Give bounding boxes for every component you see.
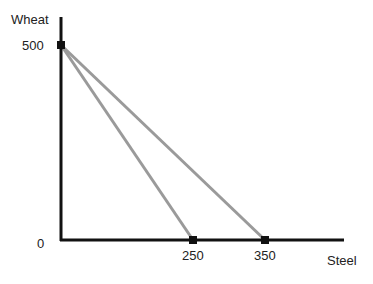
marker-steel-350 <box>261 236 269 244</box>
marker-wheat-500 <box>57 41 65 49</box>
chart-canvas <box>0 0 373 284</box>
origin-tick: 0 <box>37 236 44 251</box>
marker-steel-250 <box>189 236 197 244</box>
x-axis-label: Steel <box>327 253 357 268</box>
y-axis-label: Wheat <box>11 12 49 27</box>
x-tick-350: 350 <box>254 248 276 263</box>
ppf-line-350 <box>61 45 265 240</box>
ppf-line-250 <box>61 45 193 240</box>
y-tick-500: 500 <box>22 38 44 53</box>
x-tick-250: 250 <box>182 248 204 263</box>
